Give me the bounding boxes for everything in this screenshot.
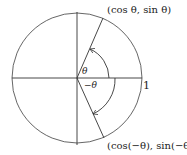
unit-circle-diagram xyxy=(0,0,187,155)
ray-theta xyxy=(77,18,103,78)
lower-point-label: (cos(−θ), sin(−θ)) xyxy=(107,140,187,151)
theta-label: θ xyxy=(82,66,87,76)
radius-label: 1 xyxy=(143,79,150,92)
neg-theta-label: −θ xyxy=(84,80,97,90)
upper-point-label: (cos θ, sin θ) xyxy=(107,4,171,15)
arc-arrow-theta xyxy=(90,49,109,78)
